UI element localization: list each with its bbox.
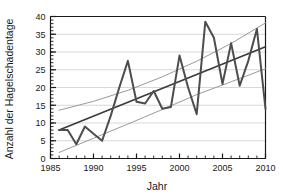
y-tick-label: 20 [35,83,45,93]
y-tick-label: 0 [40,154,45,164]
y-tick-label: 40 [35,12,45,22]
x-tick-label: 2010 [255,163,275,173]
hail-damage-days-chart: 198519901995200020052010 051015202530354… [0,0,283,195]
y-tick-label: 35 [35,30,45,40]
x-tick-label: 1995 [126,163,146,173]
chart-canvas: 198519901995200020052010 051015202530354… [0,0,283,195]
x-tick-label: 1990 [83,163,103,173]
x-tick-label: 2005 [212,163,232,173]
y-tick-label: 5 [40,136,45,146]
x-tick-label: 2000 [169,163,189,173]
y-tick-label: 15 [35,101,45,111]
x-tick-label: 1985 [40,163,60,173]
x-axis-title: Jahr [147,180,168,192]
y-tick-label: 10 [35,118,45,128]
y-tick-label: 25 [35,65,45,75]
y-axis-title: Anzahl der Hagelschadentage [3,18,15,159]
y-tick-label: 30 [35,47,45,57]
